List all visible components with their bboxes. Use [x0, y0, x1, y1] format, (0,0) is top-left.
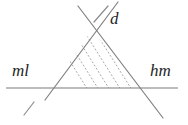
tick-below-baseline: [24, 102, 34, 115]
label-hm: hm: [150, 62, 171, 79]
tick-near-d-label: [94, 6, 108, 22]
geometric-figure: ml hm d: [0, 0, 188, 125]
hatch-line: [99, 20, 148, 98]
hatch-line: [110, 20, 159, 98]
label-d: d: [110, 10, 119, 27]
hatch-line: [121, 20, 170, 98]
label-ml: ml: [12, 62, 29, 79]
hatch-line: [44, 20, 93, 98]
hatch-line: [66, 20, 115, 98]
hatch-line: [55, 20, 104, 98]
interior-hatching: [44, 20, 181, 98]
